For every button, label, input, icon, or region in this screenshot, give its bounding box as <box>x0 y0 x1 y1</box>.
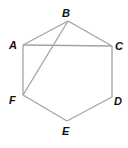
vertex-labels: ABCDEF <box>8 7 124 137</box>
vertex-label-f: F <box>9 94 16 106</box>
hexagon-diagram: ABCDEF <box>0 0 128 148</box>
vertex-label-e: E <box>62 125 70 137</box>
vertex-label-a: A <box>8 39 17 51</box>
segments <box>23 21 112 121</box>
segment-ac <box>23 45 112 46</box>
segment-bf <box>23 21 68 95</box>
segment-de <box>67 97 112 121</box>
segment-bc <box>68 21 112 46</box>
vertex-label-c: C <box>115 40 124 52</box>
vertex-label-b: B <box>62 7 70 19</box>
vertex-label-d: D <box>114 95 122 107</box>
segment-ef <box>23 95 67 121</box>
